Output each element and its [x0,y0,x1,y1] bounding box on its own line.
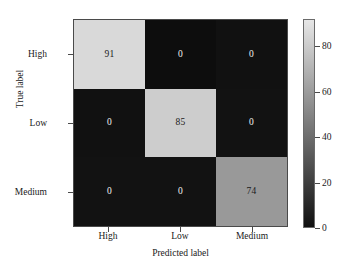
heatmap-cell-0-0: 91 [74,20,145,89]
heatmap-cell-2-2: 74 [216,157,287,226]
colorbar-tick-label-1: 60 [322,87,332,97]
y-tick-label-1: Low [30,118,47,128]
heatmap-cell-value: 0 [107,118,112,128]
heatmap-cell-2-0: 0 [74,157,145,226]
colorbar-tick-mark-0 [315,46,320,47]
colorbar [303,19,315,228]
colorbar-tick-mark-1 [315,92,320,93]
heatmap-cell-value: 74 [247,187,257,197]
x-tick-label-1: Low [151,231,209,241]
heatmap-cell-grid: 91 0 0 0 85 0 0 0 74 [74,20,287,226]
x-axis-label: Predicted label [73,248,288,258]
colorbar-tick-mark-3 [315,183,320,184]
colorbar-tick-label-3: 20 [322,178,332,188]
heatmap-cell-value: 0 [178,50,183,60]
heatmap-cell-0-1: 0 [145,20,216,89]
y-axis-label: True label [15,49,25,129]
colorbar-tick-mark-4 [315,228,320,229]
heatmap-cell-1-0: 0 [74,89,145,158]
y-tick-label-2: Medium [15,187,47,197]
colorbar-tick-label-4: 0 [322,223,327,233]
heatmap-cell-value: 85 [176,118,186,128]
colorbar-tick-label-0: 80 [322,41,332,51]
heatmap-cell-value: 0 [178,187,183,197]
heatmap-cell-value: 0 [107,187,112,197]
colorbar-tick-label-2: 40 [322,132,332,142]
heatmap-cell-1-1: 85 [145,89,216,158]
heatmap-plot-area: 91 0 0 0 85 0 0 0 74 [73,19,288,227]
heatmap-cell-value: 91 [105,50,115,60]
x-tick-label-0: High [79,231,137,241]
heatmap-cell-0-2: 0 [216,20,287,89]
x-tick-label-2: Medium [223,231,281,241]
y-tick-label-0: High [28,49,47,59]
heatmap-cell-2-1: 0 [145,157,216,226]
colorbar-gradient [304,20,314,227]
confusion-matrix-figure: True label High Low Medium 91 0 0 0 85 0… [0,0,344,267]
heatmap-cell-1-2: 0 [216,89,287,158]
heatmap-cell-value: 0 [249,118,254,128]
heatmap-cell-value: 0 [249,50,254,60]
colorbar-tick-mark-2 [315,137,320,138]
